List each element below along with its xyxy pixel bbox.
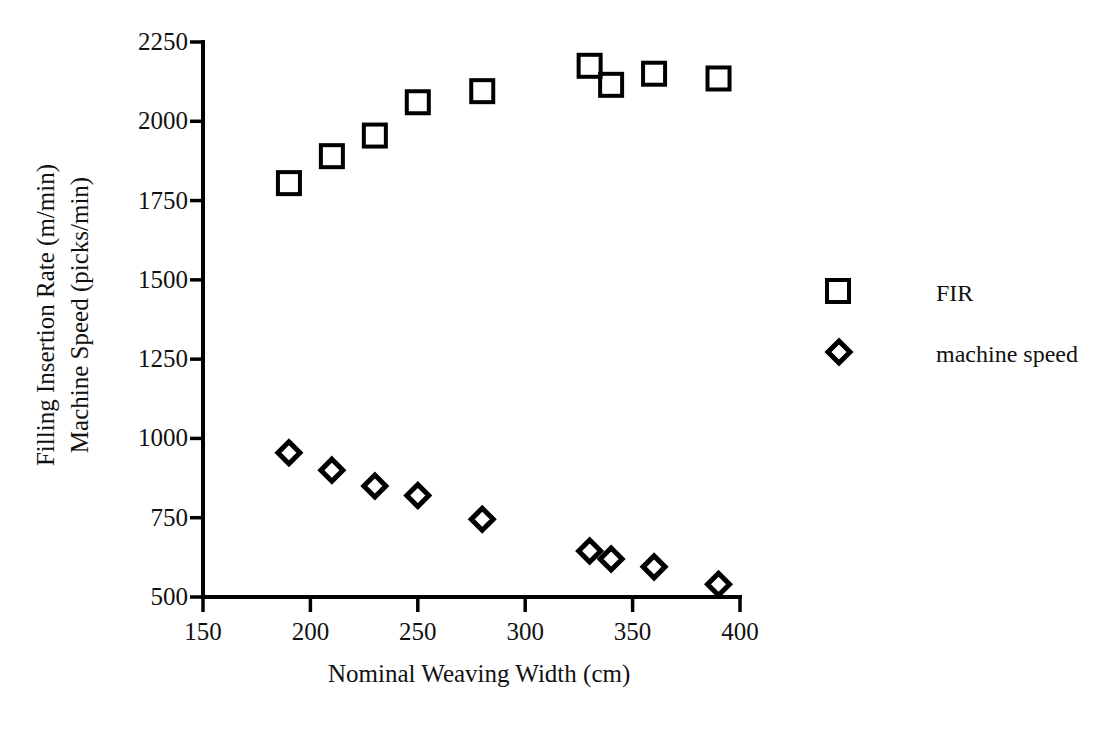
x-axis-tick-label: 300: [480, 619, 570, 644]
legend-label-machine-speed: machine speed: [936, 341, 1078, 368]
x-axis-title: Nominal Weaving Width (cm): [328, 660, 630, 688]
data-point-square: [321, 145, 343, 167]
legend-marker-square: [827, 280, 849, 302]
data-point-diamond: [321, 459, 343, 481]
legend-marker-diamond: [828, 341, 850, 363]
data-point-diamond: [471, 508, 493, 530]
y-axis-tick-label: 750: [110, 505, 188, 530]
data-point-square: [407, 91, 429, 113]
y-axis-title-line-2: Machine Speed (picks/min): [66, 177, 93, 453]
x-axis-tick-label: 350: [588, 619, 678, 644]
data-point-square: [278, 172, 300, 194]
data-point-square: [579, 55, 601, 77]
y-axis-title-line-1: Filling Insertion Rate (m/min): [32, 164, 59, 466]
y-axis-tick-label: 1250: [110, 346, 188, 371]
x-axis-tick-label: 150: [158, 619, 248, 644]
x-axis-tick-label: 200: [265, 619, 355, 644]
x-axis-tick-label: 250: [373, 619, 463, 644]
y-axis-tick-label: 1500: [110, 267, 188, 292]
data-point-diamond: [708, 573, 730, 595]
y-axis-tick-label: 2250: [110, 29, 188, 54]
data-point-square: [643, 63, 665, 85]
data-point-square: [708, 67, 730, 89]
legend-label-fir: FIR: [936, 280, 973, 307]
series-FIR: [278, 55, 730, 194]
y-axis-tick-label: 1750: [110, 188, 188, 213]
data-point-square: [471, 80, 493, 102]
y-axis-title: Filling Insertion Rate (m/min) Machine S…: [18, 150, 108, 480]
data-point-diamond: [643, 556, 665, 578]
data-point-diamond: [407, 485, 429, 507]
data-point-square: [600, 74, 622, 96]
data-point-square: [364, 125, 386, 147]
x-axis-tick-label: 400: [695, 619, 785, 644]
y-axis-tick-label: 2000: [110, 108, 188, 133]
data-point-diamond: [364, 475, 386, 497]
y-axis-tick-label: 1000: [110, 425, 188, 450]
data-point-diamond: [278, 442, 300, 464]
series-machine-speed: [278, 442, 730, 596]
chart-figure: 500750100012501500175020002250 150200250…: [0, 0, 1114, 738]
y-axis-tick-label: 500: [110, 584, 188, 609]
